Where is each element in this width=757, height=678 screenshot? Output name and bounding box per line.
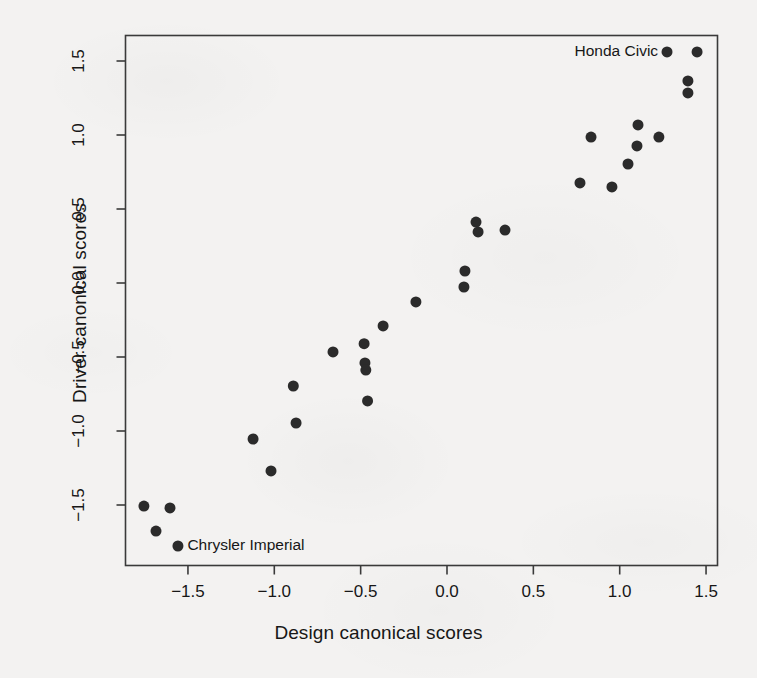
data-point bbox=[586, 132, 597, 143]
data-point bbox=[459, 266, 470, 277]
plot-box-border bbox=[126, 36, 718, 566]
y-axis-ticks bbox=[117, 61, 126, 505]
data-point bbox=[288, 381, 299, 392]
y-tick-label: 1.5 bbox=[69, 31, 89, 91]
x-axis-title: Design canonical scores bbox=[0, 622, 757, 644]
point-annotation: Honda Civic bbox=[575, 42, 659, 60]
data-point bbox=[682, 87, 693, 98]
data-point bbox=[410, 296, 421, 307]
x-tick-label: 1.0 bbox=[590, 582, 650, 602]
data-point bbox=[291, 418, 302, 429]
data-point bbox=[471, 217, 482, 228]
data-point bbox=[328, 346, 339, 357]
plot-canvas bbox=[0, 0, 757, 678]
x-tick-label: 0.5 bbox=[503, 582, 563, 602]
data-point bbox=[622, 159, 633, 170]
x-tick-label: −1.0 bbox=[244, 582, 304, 602]
x-tick-label: 0.0 bbox=[417, 582, 477, 602]
data-point bbox=[359, 338, 370, 349]
point-annotation: Chrysler Imperial bbox=[187, 536, 304, 554]
x-tick-label: 1.5 bbox=[676, 582, 736, 602]
data-point bbox=[633, 119, 644, 130]
y-axis-title: Driver canonical scores bbox=[69, 103, 91, 503]
data-point-group bbox=[138, 46, 702, 551]
data-point bbox=[151, 526, 162, 537]
data-point bbox=[362, 395, 373, 406]
data-point bbox=[360, 365, 371, 376]
data-point bbox=[574, 177, 585, 188]
data-point bbox=[662, 46, 673, 57]
data-point bbox=[378, 320, 389, 331]
x-tick-label: −1.5 bbox=[158, 582, 218, 602]
data-point bbox=[266, 465, 277, 476]
data-point bbox=[631, 140, 642, 151]
data-point bbox=[653, 132, 664, 143]
data-point bbox=[682, 75, 693, 86]
data-point bbox=[138, 501, 149, 512]
plot-frame bbox=[126, 36, 718, 566]
x-axis-ticks bbox=[188, 566, 706, 575]
scatter-plot-figure: −1.5−1.0−0.50.00.51.01.5 −1.5−1.0−0.50.0… bbox=[0, 0, 757, 678]
data-point bbox=[473, 226, 484, 237]
data-point bbox=[164, 502, 175, 513]
data-point bbox=[248, 433, 259, 444]
x-tick-label: −0.5 bbox=[331, 582, 391, 602]
data-point bbox=[172, 540, 183, 551]
data-point bbox=[606, 181, 617, 192]
data-point bbox=[458, 281, 469, 292]
data-point bbox=[692, 46, 703, 57]
data-point bbox=[500, 225, 511, 236]
